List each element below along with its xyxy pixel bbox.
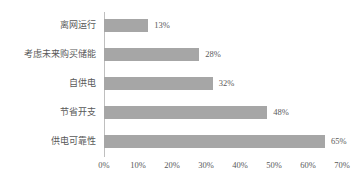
plot-area: 13% 28% 32% 48% 65% <box>104 12 342 157</box>
x-tick-label-7: 70% <box>334 159 350 171</box>
x-tick-label-2: 20% <box>164 159 180 171</box>
bar-2[interactable] <box>104 77 213 90</box>
bar-value-4: 65% <box>331 137 347 146</box>
bar-row-4: 65% <box>104 135 347 148</box>
x-tick-label-5: 50% <box>266 159 282 171</box>
x-tick-label-4: 40% <box>232 159 248 171</box>
bar-0[interactable] <box>104 19 148 32</box>
x-tick-label-6: 60% <box>300 159 316 171</box>
x-tick-label-0: 0% <box>98 159 109 171</box>
x-axis-tick-labels: 0%10%20%30%40%50%60%70% <box>0 159 364 175</box>
bar-3[interactable] <box>104 106 267 119</box>
category-label-2: 自供电 <box>0 77 96 90</box>
category-label-group: 离网运行 考虑未来购买储能 自供电 节省开支 供电可靠性 <box>0 12 100 157</box>
bar-value-1: 28% <box>205 50 221 59</box>
bar-value-3: 48% <box>273 108 289 117</box>
category-label-4: 供电可靠性 <box>0 135 96 148</box>
bar-row-0: 13% <box>104 19 170 32</box>
x-tick-label-1: 10% <box>130 159 146 171</box>
category-label-1: 考虑未来购买储能 <box>0 48 96 61</box>
bar-value-2: 32% <box>219 79 235 88</box>
bar-row-1: 28% <box>104 48 221 61</box>
bar-row-3: 48% <box>104 106 289 119</box>
bar-chart: 离网运行 考虑未来购买储能 自供电 节省开支 供电可靠性 13% 28% 32%… <box>0 0 364 187</box>
x-tick-label-3: 30% <box>198 159 214 171</box>
bar-1[interactable] <box>104 48 199 61</box>
bar-4[interactable] <box>104 135 325 148</box>
bar-value-0: 13% <box>154 21 170 30</box>
bar-row-2: 32% <box>104 77 234 90</box>
category-label-3: 节省开支 <box>0 106 96 119</box>
category-label-0: 离网运行 <box>0 19 96 32</box>
